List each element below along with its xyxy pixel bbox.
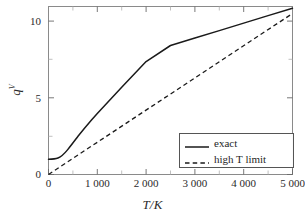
y-axis-label: qV bbox=[8, 70, 24, 110]
ytick-label-0: 0 bbox=[1, 168, 41, 180]
legend-sample-dashed-line bbox=[184, 154, 210, 164]
chart-figure: 0 1 000 2 000 3 000 4 000 5 000 0 5 10 T… bbox=[0, 0, 305, 216]
y-axis-label-exponent: V bbox=[8, 84, 17, 89]
legend-label-exact: exact bbox=[214, 137, 237, 149]
legend-sample-solid-line bbox=[184, 138, 210, 148]
xtick-label-5000: 5 000 bbox=[263, 177, 306, 189]
legend: exact high T limit bbox=[179, 133, 294, 168]
ytick-label-10: 10 bbox=[1, 15, 41, 27]
legend-entry-exact: exact bbox=[184, 135, 237, 151]
y-axis-label-base: q bbox=[8, 89, 23, 96]
x-axis-label: T/K bbox=[0, 197, 305, 213]
legend-entry-high-t-limit: high T limit bbox=[184, 151, 266, 167]
legend-label-high-t-limit: high T limit bbox=[214, 153, 266, 165]
